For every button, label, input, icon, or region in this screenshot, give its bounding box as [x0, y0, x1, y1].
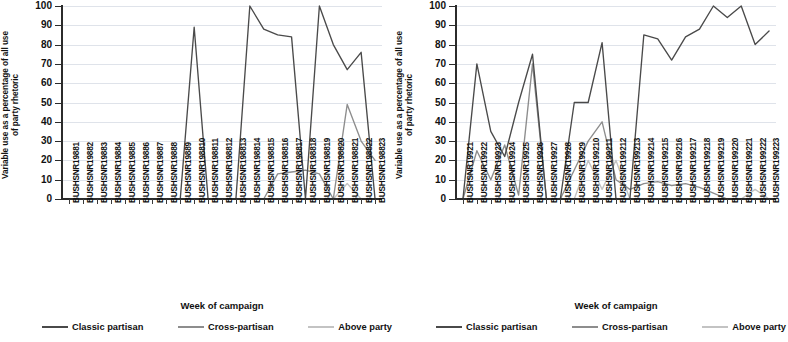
legend-item-classic-partisan[interactable]: Classic partisan	[436, 322, 537, 332]
y-axis-tick-label: 20	[24, 155, 52, 165]
y-axis-tick-label: 70	[418, 59, 446, 69]
x-axis-tick-label: BUSHSNR19884	[114, 142, 123, 203]
x-axis-tick-label: BUSHSNR199216	[675, 138, 684, 203]
x-axis-tick-label: BUSHSNR198816	[281, 138, 290, 203]
x-axis-tick-label: BUSHSNR199223	[772, 138, 781, 203]
x-axis-tick-label: BUSHSNR199217	[689, 138, 698, 203]
x-axis-tick	[755, 199, 756, 204]
x-axis-tick	[111, 199, 112, 204]
legend-label: Above party	[732, 322, 786, 332]
x-axis-tick-label: BUSHSNR199211	[605, 138, 614, 203]
x-axis-tick-label: BUSHSNR199222	[759, 138, 768, 203]
y-axis-tick	[55, 160, 62, 161]
legend-label: Cross-partisan	[208, 322, 274, 332]
y-axis-tick	[55, 180, 62, 181]
x-axis-tick	[125, 199, 126, 204]
y-axis-tick	[55, 141, 62, 142]
y-axis-tick-label: 10	[418, 175, 446, 185]
y-axis-title-line1: Variable use as a percentage of all use	[394, 31, 404, 179]
x-axis-tick-label: BUSHSNR198818	[309, 138, 318, 203]
gridline	[62, 180, 382, 181]
x-axis-tick-label: BUSHSNR19882	[86, 142, 95, 203]
x-axis-tick	[658, 199, 659, 204]
y-axis-tick	[449, 6, 456, 7]
y-axis-tick-label: 50	[24, 98, 52, 108]
x-axis-tick	[574, 199, 575, 204]
x-axis-tick-label: BUSHSNR19886	[142, 142, 151, 203]
x-axis-tick-label: BUSHSNR199221	[745, 138, 754, 203]
y-axis-tick	[55, 122, 62, 123]
x-axis-tick	[278, 199, 279, 204]
gridline	[456, 180, 776, 181]
x-axis-tick	[533, 199, 534, 204]
x-axis-tick	[519, 199, 520, 204]
y-axis-tick-label: 60	[24, 78, 52, 88]
gridline	[456, 6, 776, 7]
legend-label: Above party	[338, 322, 392, 332]
legend-label: Classic partisan	[466, 322, 537, 332]
x-axis-tick	[644, 199, 645, 204]
x-axis-tick	[361, 199, 362, 204]
x-axis-tick	[69, 199, 70, 204]
x-axis-tick	[292, 199, 293, 204]
chart-panel-right: Variable use as a percentage of all use …	[394, 0, 788, 342]
x-axis-tick-label: BUSHSNR198813	[239, 138, 248, 203]
x-axis-tick	[463, 199, 464, 204]
legend-item-above-party[interactable]: Above party	[702, 322, 786, 332]
x-axis-tick-label: BUSHSNR198817	[295, 138, 304, 203]
x-axis-tick	[180, 199, 181, 204]
legend-swatch-icon	[572, 326, 598, 328]
y-axis-tick	[449, 122, 456, 123]
x-axis-tick-label: BUSHSNR19887	[156, 142, 165, 203]
x-axis-title-left: Week of campaign	[62, 300, 382, 311]
y-axis-tick-label: 100	[418, 1, 446, 11]
legend-item-above-party[interactable]: Above party	[308, 322, 392, 332]
y-axis-tick-label: 0	[24, 194, 52, 204]
gridline	[456, 103, 776, 104]
series-layer	[394, 0, 788, 342]
x-axis-tick-label: BUSHSNR199219	[717, 138, 726, 203]
x-axis-tick-label: BUSHSNR19926	[536, 142, 545, 203]
y-axis-tick-label: 20	[418, 155, 446, 165]
y-axis-tick-label: 30	[418, 136, 446, 146]
gridline	[62, 45, 382, 46]
x-axis-tick	[741, 199, 742, 204]
legend-swatch-icon	[308, 326, 334, 328]
x-axis-tick-label: BUSHSNR19927	[550, 142, 559, 203]
x-axis-tick-label: BUSHSNR198811	[211, 138, 220, 203]
y-axis-tick	[55, 64, 62, 65]
gridline	[456, 122, 776, 123]
y-axis-tick-label: 90	[24, 20, 52, 30]
x-axis-tick-label: BUSHSNR19885	[128, 142, 137, 203]
gridline	[62, 64, 382, 65]
x-axis-tick	[560, 199, 561, 204]
x-axis-tick	[699, 199, 700, 204]
x-axis-tick	[616, 199, 617, 204]
y-axis-tick-label: 40	[24, 117, 52, 127]
x-axis-tick-label: BUSHSNR199218	[703, 138, 712, 203]
gridline	[62, 160, 382, 161]
figure-two-panel-line-charts: Variable use as a percentage of all use …	[0, 0, 788, 342]
y-axis-tick-label: 50	[418, 98, 446, 108]
x-axis-tick-label: BUSHSNR199210	[592, 138, 601, 203]
y-axis-tick	[449, 103, 456, 104]
x-axis-tick	[672, 199, 673, 204]
legend-item-classic-partisan[interactable]: Classic partisan	[42, 322, 143, 332]
y-axis-title-left: Variable use as a percentage of all use …	[0, 5, 26, 205]
x-axis-tick-label: BUSHSNR19929	[578, 142, 587, 203]
x-axis-tick	[686, 199, 687, 204]
gridline	[456, 45, 776, 46]
x-axis-tick	[727, 199, 728, 204]
x-axis-tick-label: BUSHSNR198822	[365, 138, 374, 203]
x-axis-tick-label: BUSHSNR19928	[564, 142, 573, 203]
legend-item-cross-partisan[interactable]: Cross-partisan	[572, 322, 668, 332]
x-axis-tick	[264, 199, 265, 204]
legend-item-cross-partisan[interactable]: Cross-partisan	[178, 322, 274, 332]
y-axis-tick	[55, 6, 62, 7]
x-axis-tick	[769, 199, 770, 204]
legend-left: Classic partisanCross-partisanAbove part…	[42, 322, 392, 332]
x-axis-tick	[713, 199, 714, 204]
x-axis-tick	[166, 199, 167, 204]
y-axis-tick	[449, 160, 456, 161]
gridline	[456, 64, 776, 65]
